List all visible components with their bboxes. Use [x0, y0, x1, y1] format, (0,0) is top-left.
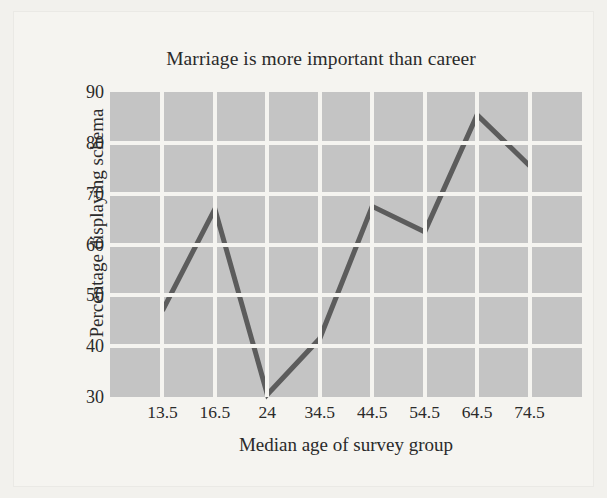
plot-area [110, 92, 582, 397]
y-axis-tick-label: 50 [60, 285, 104, 306]
y-axis-tick-labels: 30405060708090 [56, 92, 104, 397]
horizontal-gridline [110, 293, 582, 297]
y-axis-tick-label: 60 [60, 234, 104, 255]
y-axis-tick-label: 30 [60, 387, 104, 408]
horizontal-gridline [110, 344, 582, 348]
y-axis-tick-label: 80 [60, 132, 104, 153]
x-axis-title: Median age of survey group [110, 434, 582, 456]
x-axis-tick-label: 74.5 [495, 402, 565, 423]
horizontal-gridline [110, 243, 582, 247]
chart-title: Marriage is more important than career [60, 48, 582, 70]
y-axis-tick-label: 70 [60, 183, 104, 204]
horizontal-gridline [110, 141, 582, 145]
y-axis-tick-label: 90 [60, 82, 104, 103]
y-axis-tick-label: 40 [60, 336, 104, 357]
scanned-page: Marriage is more important than career P… [0, 0, 607, 498]
horizontal-gridline [110, 192, 582, 196]
x-axis-tick-labels: 13.516.52434.544.554.564.574.5 [110, 402, 582, 432]
chart-figure: Marriage is more important than career P… [0, 0, 607, 498]
